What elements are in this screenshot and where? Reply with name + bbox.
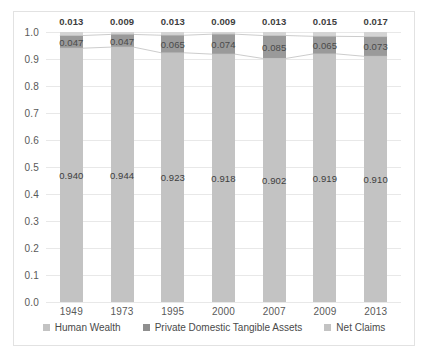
data-label: 0.047 (59, 36, 83, 47)
legend-item-net-claims[interactable]: Net Claims (324, 322, 385, 333)
data-label: 0.902 (262, 175, 286, 186)
data-label: 0.065 (313, 40, 337, 51)
bar-group[interactable]: 0.9180.0740.009 (212, 32, 235, 302)
y-axis-tick-label: 0.1 (24, 270, 39, 281)
y-axis-tick-label: 0.9 (24, 54, 39, 65)
chart-legend: Human Wealth Private Domestic Tangible A… (14, 322, 414, 333)
bar-group[interactable]: 0.9020.0850.013 (263, 32, 286, 302)
gridline: 0.0 (46, 302, 401, 303)
data-label: 0.013 (161, 16, 185, 27)
chart-frame: 1.00.90.80.70.60.50.40.30.20.10.0 0.9400… (13, 11, 415, 346)
legend-swatch-icon (143, 324, 150, 331)
data-label: 0.009 (211, 16, 235, 27)
y-axis-tick-label: 0.4 (24, 189, 39, 200)
bar-segment[interactable] (111, 32, 134, 34)
bar-segment[interactable] (364, 32, 387, 37)
bar-segment[interactable] (161, 32, 184, 36)
data-label: 0.085 (262, 41, 286, 52)
y-axis-tick-label: 0.5 (24, 162, 39, 173)
legend-label: Human Wealth (55, 322, 121, 333)
plot-area: 1.00.90.80.70.60.50.40.30.20.10.0 0.9400… (46, 32, 401, 302)
x-axis-tick-label: 1949 (60, 306, 83, 317)
bar-segment[interactable] (313, 32, 336, 36)
y-axis-tick-label: 0.8 (24, 81, 39, 92)
data-label: 0.923 (161, 172, 185, 183)
y-axis-tick-label: 1.0 (24, 27, 39, 38)
legend-label: Private Domestic Tangible Assets (155, 322, 303, 333)
bar-group[interactable]: 0.9230.0650.013 (161, 32, 184, 302)
data-label: 0.940 (59, 170, 83, 181)
bar-group[interactable]: 0.9100.0730.017 (364, 32, 387, 302)
x-axis-tick-label: 1973 (111, 306, 134, 317)
data-label: 0.074 (211, 39, 235, 50)
data-label: 0.065 (161, 39, 185, 50)
legend-swatch-icon (43, 324, 50, 331)
data-label: 0.910 (364, 174, 388, 185)
data-label: 0.918 (211, 173, 235, 184)
bar-group[interactable]: 0.9190.0650.015 (313, 32, 336, 302)
bar-group[interactable]: 0.9400.0470.013 (60, 32, 83, 302)
data-label: 0.073 (364, 41, 388, 52)
data-label: 0.919 (313, 172, 337, 183)
legend-item-human-wealth[interactable]: Human Wealth (43, 322, 121, 333)
x-axis-tick-label: 2009 (313, 306, 336, 317)
data-label: 0.015 (313, 16, 337, 27)
y-axis-tick-label: 0.7 (24, 108, 39, 119)
y-axis-tick-label: 0.3 (24, 216, 39, 227)
legend-label: Net Claims (336, 322, 385, 333)
data-label: 0.013 (59, 16, 83, 27)
bar-segment[interactable] (212, 32, 235, 34)
y-axis-tick-label: 0.6 (24, 135, 39, 146)
x-axis-tick-label: 1995 (161, 306, 184, 317)
x-axis-tick-label: 2000 (212, 306, 235, 317)
data-label: 0.009 (110, 16, 134, 27)
legend-swatch-icon (324, 324, 331, 331)
data-label: 0.013 (262, 16, 286, 27)
data-label: 0.047 (110, 35, 134, 46)
x-axis-tick-label: 2007 (263, 306, 286, 317)
data-label: 0.017 (364, 16, 388, 27)
y-axis-tick-label: 0.2 (24, 243, 39, 254)
y-axis-tick-label: 0.0 (24, 297, 39, 308)
bar-segment[interactable] (60, 32, 83, 36)
bar-group[interactable]: 0.9440.0470.009 (111, 32, 134, 302)
data-label: 0.944 (110, 169, 134, 180)
legend-item-private-domestic-tangible-assets[interactable]: Private Domestic Tangible Assets (143, 322, 303, 333)
x-axis-tick-label: 2013 (364, 306, 387, 317)
bar-segment[interactable] (263, 32, 286, 36)
